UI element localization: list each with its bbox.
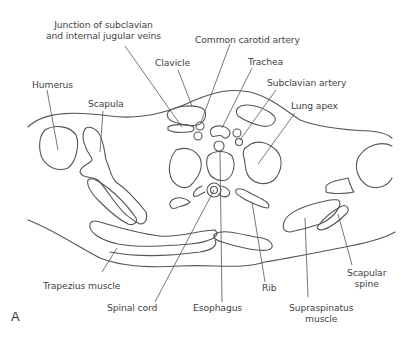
subclavian-artery-circle — [236, 139, 243, 146]
label-humerus: Humerus — [32, 79, 73, 90]
label-spinal-cord: Spinal cord — [107, 302, 157, 313]
right-small-shape — [326, 178, 354, 194]
skin-posterior-contour — [28, 220, 395, 267]
anatomical-cross-section-figure: Junction of subclavian and internal jugu… — [0, 0, 414, 341]
common-carotid-circle — [196, 122, 204, 130]
leader-humerus — [47, 90, 58, 150]
label-rib: Rib — [262, 282, 276, 293]
label-junction-line-2: and internal jugular veins — [46, 30, 161, 41]
label-supraspinatus-line-2: muscle — [289, 313, 353, 324]
label-supraspinatus-muscle: Supraspinatus muscle — [289, 302, 353, 324]
left-mass-shape — [169, 148, 201, 187]
clavicle-shape — [167, 106, 205, 126]
label-esophagus: Esophagus — [193, 302, 242, 313]
leader-trachea — [222, 68, 252, 128]
esophagus-circle — [214, 141, 224, 151]
leader-supraspinatus — [305, 218, 308, 297]
label-subclavian-artery: Subclavian artery — [267, 77, 346, 88]
panel-letter: A — [11, 309, 20, 324]
label-clavicle: Clavicle — [155, 57, 190, 68]
label-scapular-spine-line-1: Scapular — [347, 267, 386, 278]
leader-scapula — [100, 111, 103, 152]
right-posterior-band — [214, 232, 272, 251]
label-scapular-spine-line-2: spine — [347, 278, 386, 289]
label-trapezius-muscle: Trapezius muscle — [43, 280, 120, 291]
label-lung-apex: Lung apex — [291, 100, 338, 111]
label-junction-line-1: Junction of subclavian — [46, 19, 161, 30]
leader-scapular-spine — [338, 214, 352, 265]
scapula-shape — [80, 127, 147, 224]
label-trachea: Trachea — [248, 56, 283, 67]
trapezius-shape — [90, 221, 217, 246]
scapular-spine-shape — [317, 206, 348, 230]
label-scapula: Scapula — [88, 98, 124, 109]
label-scapular-spine: Scapular spine — [347, 267, 386, 289]
vessel-circle — [194, 132, 202, 140]
leader-esophagus — [220, 151, 222, 302]
leader-common-carotid — [201, 44, 230, 122]
trachea-shape — [211, 126, 231, 138]
right-clavicle-shape — [237, 105, 276, 126]
vessel-circle-right — [233, 129, 241, 137]
label-supraspinatus-line-1: Supraspinatus — [289, 302, 353, 313]
left-posterior-shape — [170, 198, 190, 209]
lung-apex-shape — [243, 142, 281, 183]
leader-subclavian-artery — [240, 90, 276, 140]
humerus-shape — [40, 127, 78, 170]
leader-clavicle — [178, 70, 192, 106]
label-common-carotid-artery: Common carotid artery — [195, 34, 300, 45]
label-junction: Junction of subclavian and internal jugu… — [46, 19, 161, 41]
right-c-shape — [356, 144, 392, 188]
leader-rib — [252, 202, 265, 282]
leader-lung-apex — [258, 113, 295, 164]
supraspinatus-shape — [283, 200, 340, 232]
